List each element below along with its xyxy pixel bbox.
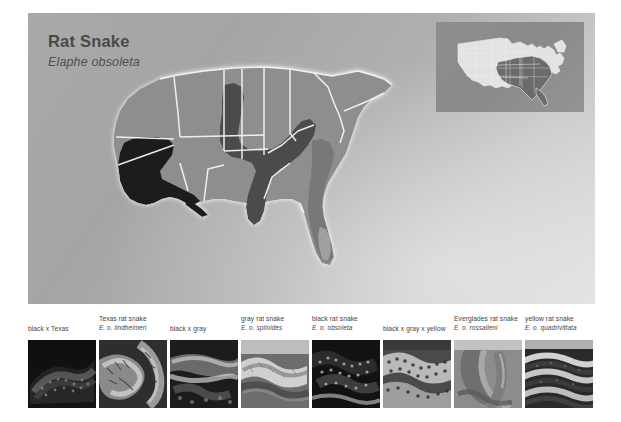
specimen-photo-strip: black x Texas bbox=[28, 310, 595, 410]
specimen-photo[interactable] bbox=[28, 340, 96, 408]
specimen-cell[interactable]: black rat snake E. o. obsoleta bbox=[312, 310, 380, 410]
specimen-photo[interactable] bbox=[312, 340, 380, 408]
specimen-cell[interactable]: black x gray x yellow bbox=[383, 310, 451, 410]
specimen-photo[interactable] bbox=[170, 340, 238, 408]
specimen-common-name: yellow rat snake bbox=[525, 315, 621, 324]
inset-locator-map bbox=[436, 22, 584, 112]
page-title: Rat Snake bbox=[48, 32, 140, 50]
specimen-photo[interactable] bbox=[454, 340, 522, 408]
title-block: Rat Snake Elaphe obsoleta bbox=[48, 32, 140, 69]
specimen-cell[interactable]: Texas rat snake E. o. lindheimeri bbox=[99, 310, 167, 410]
specimen-photo[interactable] bbox=[525, 340, 593, 408]
specimen-scientific-name: E. o. quadrivittata bbox=[525, 324, 621, 332]
specimen-cell[interactable]: Everglades rat snake E. o. rossalleni bbox=[454, 310, 522, 410]
specimen-photo[interactable] bbox=[241, 340, 309, 408]
specimen-cell[interactable]: gray rat snake E. o. spiloides bbox=[241, 310, 309, 410]
specimen-cell[interactable]: black x Texas bbox=[28, 310, 96, 410]
specimen-cell[interactable]: yellow rat snake E. o. quadrivittata bbox=[525, 310, 593, 410]
scientific-name: Elaphe obsoleta bbox=[48, 55, 140, 69]
field-guide-page: Rat Snake Elaphe obsoleta bbox=[0, 0, 621, 422]
specimen-photo[interactable] bbox=[99, 340, 167, 408]
specimen-cell[interactable]: black x gray bbox=[170, 310, 238, 410]
specimen-photo[interactable] bbox=[383, 340, 451, 408]
specimen-caption: yellow rat snake E. o. quadrivittata bbox=[525, 315, 621, 332]
